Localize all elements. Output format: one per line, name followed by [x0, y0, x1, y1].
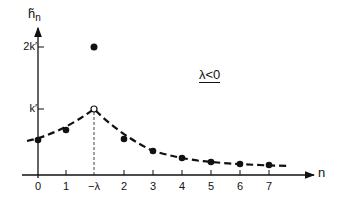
x-ticks: [66, 170, 269, 175]
x-tick-label-1: 1: [63, 181, 69, 192]
x-axis-label: n: [318, 166, 325, 179]
y-axis-label: h̃n: [28, 7, 41, 20]
x-tick-label-4: 4: [179, 181, 185, 192]
diagram-canvas: [0, 0, 348, 198]
x-tick-label-3: 3: [150, 181, 156, 192]
envelope-curve: [27, 109, 290, 166]
x-tick-label-0: 0: [35, 181, 41, 192]
y-tick-label-2k: 2k′: [23, 41, 37, 52]
y-axis-label-sub: n: [35, 12, 41, 23]
isolated-point-2k: [91, 44, 98, 51]
data-points: [35, 127, 273, 169]
x-tick-label-2: 2: [121, 181, 127, 192]
x-tick-label-5: 5: [208, 181, 214, 192]
y-tick-label-k: k′: [29, 103, 37, 114]
condition-label: λ<0: [199, 68, 220, 83]
x-tick-label-7: 7: [266, 181, 272, 192]
x-tick-label-6: 6: [237, 181, 243, 192]
x-tick-label-neg-lambda: −λ: [88, 181, 100, 192]
peak-open-point: [91, 106, 97, 112]
